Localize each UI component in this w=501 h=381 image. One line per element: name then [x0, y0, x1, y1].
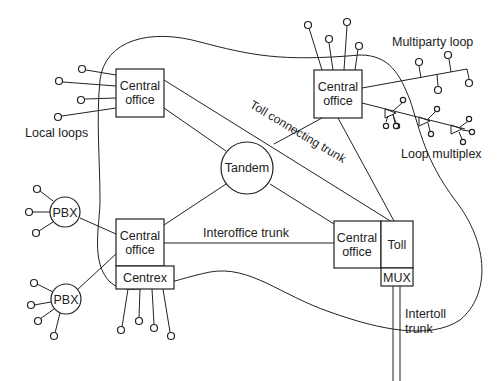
toll-office: Toll [381, 221, 413, 268]
subscriber-terminal-icon [344, 19, 351, 26]
intertoll-trunk [393, 286, 400, 381]
intertoll-trunk-label-line2: trunk [405, 322, 434, 336]
mux-label: MUX [383, 271, 411, 285]
co-label-line2: office [342, 245, 372, 259]
subscriber-terminal-icon [78, 97, 85, 104]
co-label-line1: Central [337, 231, 377, 245]
pbx-top: PBX [26, 186, 117, 237]
interoffice-trunk-label: Interoffice trunk [203, 226, 290, 240]
central-office-top-right: Central office [314, 70, 362, 118]
toll-label: Toll [388, 238, 407, 252]
pbx-bottom: PBX [28, 254, 117, 340]
subscriber-terminal-icon [416, 59, 423, 66]
centrex-loops [118, 289, 175, 340]
local-loops [55, 66, 117, 121]
co-label-line1: Central [120, 229, 160, 243]
intertoll-trunk-label-line1: Intertoll [405, 307, 446, 321]
centrex-label: Centrex [123, 271, 168, 285]
subscriber-terminal-icon [56, 78, 63, 85]
subscriber-terminal-icon [326, 36, 333, 43]
tandem-label: Tandem [225, 161, 269, 175]
co-label-line1: Central [318, 80, 358, 94]
loop-multiplex [362, 97, 475, 144]
subscriber-terminal-icon [356, 43, 363, 50]
co-label-line2: office [125, 243, 155, 257]
central-office-bottom-right: Central office [334, 221, 381, 268]
mux: MUX [381, 268, 413, 286]
co-label-line2: office [125, 93, 155, 107]
tandem-switch: Tandem [221, 142, 273, 194]
subscriber-terminal-icon [305, 22, 312, 29]
central-office-bottom-left: Central office [116, 219, 164, 266]
local-loops-label: Local loops [25, 126, 88, 140]
centrex: Centrex [116, 266, 174, 289]
subscriber-terminal-icon [55, 114, 62, 121]
top-right-loops [305, 19, 363, 71]
loop-multiplex-label: Loop multiplex [401, 147, 482, 161]
subscriber-terminal-icon [79, 66, 86, 73]
telephone-network-diagram: Central office Local loops Central offic… [0, 0, 501, 381]
co-label-line2: office [323, 94, 353, 108]
co-label-line1: Central [120, 79, 160, 93]
subscriber-terminal-icon [466, 80, 473, 87]
subscriber-terminal-icon [435, 87, 442, 94]
multiparty-loop [362, 52, 473, 94]
subscriber-terminal-icon [445, 52, 452, 59]
multiparty-loop-label: Multiparty loop [392, 35, 473, 49]
pbx-label: PBX [52, 206, 78, 220]
pbx-label: PBX [53, 293, 79, 307]
central-office-top-left: Central office [116, 69, 164, 117]
